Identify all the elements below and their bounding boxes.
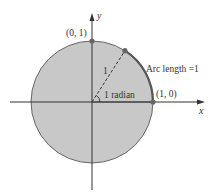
x-axis-label: x <box>198 105 204 116</box>
point-right <box>150 99 155 104</box>
point-top-label: (0, 1) <box>66 28 87 39</box>
point-one-radian <box>122 48 127 53</box>
y-axis-label: y <box>96 10 102 21</box>
radius-label: 1 <box>103 66 108 76</box>
x-axis-arrow-icon <box>197 100 205 105</box>
point-top <box>89 38 94 43</box>
point-right-label: (1, 0) <box>156 89 177 100</box>
y-axis-arrow-icon <box>90 13 95 21</box>
unit-circle-diagram: y x (0, 1) (1, 0) 1 1 radian Arc length … <box>0 0 217 194</box>
arc-length-label: Arc length =1 <box>146 64 199 74</box>
angle-label: 1 radian <box>104 90 135 100</box>
